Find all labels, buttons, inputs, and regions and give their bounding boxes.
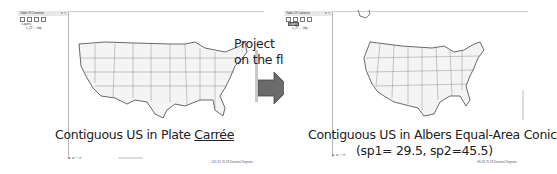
status-bar-left: ⊞ ⊟ ‹ › ⟳ -141.91 70.78 Decimal Degrees [68, 156, 263, 162]
vertical-scrollbar-right[interactable] [522, 90, 524, 120]
us-map-albers [362, 40, 492, 125]
left-arcmap-window: Table Of Contents ▾ × Layers s_27 ... sh… [0, 0, 270, 174]
toc-pin-icon[interactable]: ▾ × [325, 11, 330, 16]
toc-title: Table Of Contents ▾ × [18, 11, 68, 16]
left-caption: Contiguous US in Plate Carrée [55, 127, 234, 142]
list-by-visibility-icon[interactable] [34, 17, 39, 22]
horizontal-scrollbar-left[interactable] [118, 157, 143, 159]
toc-layer-item[interactable]: s_27 ... shp [18, 26, 68, 30]
coordinate-readout: -96.08 70.78 Decimal Degrees [476, 160, 517, 164]
list-by-selection-icon[interactable] [41, 17, 46, 22]
list-by-visibility-icon[interactable] [300, 17, 305, 22]
toc-pin-icon[interactable]: ▾ × [61, 11, 66, 16]
toc-title: Table Of Contents ▾ × [284, 11, 332, 16]
toc-layer-item[interactable]: s_27 ... shp [284, 26, 332, 30]
right-caption-line1: Contiguous US in Albers Equal-Area Conic [308, 127, 557, 142]
list-by-selection-icon[interactable] [307, 17, 312, 22]
coordinate-readout: -141.91 70.78 Decimal Degrees [211, 160, 253, 164]
map-nav-buttons[interactable]: ⊞ ⊟ ‹ › ⟳ [332, 153, 346, 157]
us-map-plate-carree [75, 38, 250, 123]
right-arcmap-window: Table Of Contents ▾ × Layers s_27 ... sh… [270, 0, 547, 174]
map-nav-buttons[interactable]: ⊞ ⊟ ‹ › ⟳ [68, 156, 82, 160]
right-caption-line2: (sp1= 29.5, sp2=45.5) [356, 143, 493, 158]
alaska-fragment [356, 10, 372, 22]
